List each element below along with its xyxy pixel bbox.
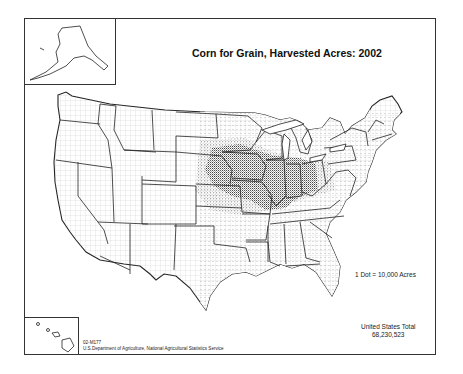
legend-dot-value: 1 Dot = 10,000 Acres [355, 271, 416, 278]
conterminous-us [50, 90, 410, 320]
alaska-inset [24, 18, 116, 85]
credit-block: 02-M177 U.S.Department of Agriculture, N… [83, 340, 224, 351]
hawaii-inset [24, 317, 79, 355]
county-boundaries [50, 90, 410, 320]
us-total: United States Total 68,230,523 [361, 323, 415, 339]
us-total-label: United States Total [361, 323, 415, 331]
source-credit: U.S.Department of Agriculture, National … [83, 346, 224, 352]
us-total-value: 68,230,523 [361, 331, 415, 339]
map-title: Corn for Grain, Harvested Acres: 2002 [192, 47, 382, 59]
